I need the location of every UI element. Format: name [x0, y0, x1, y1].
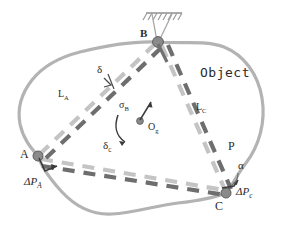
link-la-label: LA	[58, 89, 69, 102]
node-c-joint	[221, 188, 231, 198]
link-lac-undeformed	[41, 159, 224, 190]
node-c-label: C	[215, 200, 223, 212]
delta-pa-subscript: A	[37, 182, 41, 190]
point-p-label: P	[228, 140, 235, 152]
delta-measure-marker	[104, 74, 114, 89]
sigma-b-label: σB	[119, 100, 129, 113]
node-a-joint	[33, 151, 43, 161]
link-lc-label: LC	[196, 102, 207, 115]
delta-pc-subscript: c	[249, 192, 252, 200]
delta-c-label: δc	[103, 140, 111, 154]
delta-c-subscript: c	[108, 146, 111, 154]
fixed-support-ground-icon	[143, 13, 182, 20]
delta-pc-base: ΔP	[236, 185, 249, 197]
alpha-label: α	[238, 160, 244, 171]
delta-pa-label: ΔPA	[24, 176, 42, 190]
delta-c-rotation-arrow	[116, 115, 125, 146]
node-a-label: A	[20, 148, 29, 160]
link-la-subscript: A	[64, 94, 69, 101]
delta-pc-label: ΔPc	[236, 186, 252, 200]
link-lc-subscript: C	[202, 107, 206, 114]
delta-label: δ	[97, 64, 102, 75]
delta-pa-base: ΔP	[24, 175, 37, 187]
sigma-b-subscript: B	[124, 105, 128, 112]
node-b-label: B	[140, 28, 147, 39]
object-label: Object	[200, 66, 250, 79]
origin-label: Og	[148, 122, 159, 135]
origin-subscript: g	[155, 127, 158, 134]
sigma-b-arrow	[140, 102, 153, 120]
link-lac-deformed	[42, 166, 225, 195]
